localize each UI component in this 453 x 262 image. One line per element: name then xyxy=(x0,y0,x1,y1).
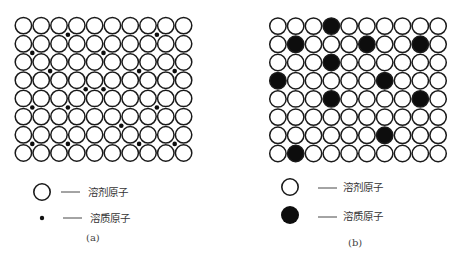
solvent-atom xyxy=(104,90,120,106)
solvent-atom xyxy=(394,91,410,107)
solvent-atom xyxy=(86,108,102,124)
solvent-atom xyxy=(430,127,446,143)
solvent-atom xyxy=(51,108,67,124)
solvent-atom xyxy=(15,108,31,124)
solvent-atom xyxy=(140,145,156,161)
solvent-atom xyxy=(175,17,191,33)
solvent-atom xyxy=(175,54,191,70)
solvent-atom xyxy=(288,127,304,143)
solvent-atom xyxy=(430,91,446,107)
solvent-atom xyxy=(341,36,357,52)
solvent-atom xyxy=(305,73,321,89)
solvent-atom xyxy=(377,54,393,70)
legend-b-solvent-label: 溶剂原子 xyxy=(343,181,383,193)
solvent-atom xyxy=(69,54,85,70)
solvent-atom xyxy=(158,90,174,106)
solvent-atom xyxy=(86,54,102,70)
solvent-atom xyxy=(359,127,375,143)
legend-b-solute-label: 溶质原子 xyxy=(343,210,383,222)
solvent-atom xyxy=(412,145,428,161)
solvent-atom xyxy=(305,91,321,107)
solvent-atom xyxy=(140,72,156,88)
solvent-atom xyxy=(69,108,85,124)
solvent-atom xyxy=(394,54,410,70)
solvent-atom xyxy=(430,18,446,34)
solute-atom xyxy=(359,36,375,52)
solvent-atom xyxy=(341,73,357,89)
panel-a-caption: (a) xyxy=(86,232,100,243)
solvent-atom xyxy=(394,109,410,125)
solute-atom xyxy=(155,105,160,110)
solute-atom xyxy=(101,51,106,56)
solvent-atom xyxy=(305,54,321,70)
solvent-atom xyxy=(430,73,446,89)
solvent-atom xyxy=(158,17,174,33)
interstitial-solid-solution-lattice xyxy=(15,17,192,161)
solvent-atom xyxy=(394,36,410,52)
solvent-atom xyxy=(122,127,138,143)
solvent-atom xyxy=(430,54,446,70)
solvent-atom xyxy=(341,54,357,70)
solute-atom xyxy=(377,73,393,89)
solute-atom xyxy=(83,87,88,92)
solvent-atom xyxy=(270,145,286,161)
solid-solution-diagram: 溶剂原子 溶质原子 (a) 溶剂原子 溶质原子 (b) xyxy=(0,0,453,262)
solvent-atom xyxy=(341,145,357,161)
solute-atom xyxy=(323,91,339,107)
solute-atom xyxy=(119,123,124,128)
solvent-atom xyxy=(175,108,191,124)
solvent-atom xyxy=(104,36,120,52)
solute-atom xyxy=(30,105,35,110)
substitutional-solid-solution-lattice xyxy=(270,18,447,162)
solvent-atom xyxy=(104,17,120,33)
solvent-atom xyxy=(359,145,375,161)
solvent-atom xyxy=(104,145,120,161)
legend-b: 溶剂原子 溶质原子 (b) xyxy=(281,179,383,248)
solvent-atom xyxy=(33,54,49,70)
solvent-atom xyxy=(33,72,49,88)
solute-atom xyxy=(66,142,71,147)
solute-atom xyxy=(412,36,428,52)
solute-atom xyxy=(66,105,71,110)
solvent-atom xyxy=(122,54,138,70)
solvent-atom xyxy=(51,72,67,88)
solvent-atom xyxy=(86,127,102,143)
solvent-atom xyxy=(122,145,138,161)
solvent-atom xyxy=(270,18,286,34)
solvent-atom xyxy=(270,91,286,107)
solvent-atom xyxy=(323,36,339,52)
solvent-atom xyxy=(15,127,31,143)
solvent-atom xyxy=(359,73,375,89)
solute-atom xyxy=(412,91,428,107)
solvent-atom xyxy=(33,145,49,161)
solvent-atom xyxy=(122,72,138,88)
legend-a: 溶剂原子 溶质原子 (a) xyxy=(34,184,130,243)
solvent-atom xyxy=(412,127,428,143)
solvent-atom xyxy=(69,90,85,106)
solute-atom xyxy=(66,32,71,37)
solvent-atom xyxy=(69,145,85,161)
solvent-atom xyxy=(15,145,31,161)
solvent-atom xyxy=(175,145,191,161)
solute-atom xyxy=(377,127,393,143)
legend-a-solute-label: 溶质原子 xyxy=(90,212,130,224)
solvent-atom xyxy=(430,109,446,125)
solvent-atom xyxy=(140,17,156,33)
solvent-atom xyxy=(33,17,49,33)
solute-atom xyxy=(30,51,35,56)
solvent-atom xyxy=(305,127,321,143)
solvent-atom xyxy=(377,91,393,107)
solute-atom xyxy=(288,145,304,161)
solvent-atom xyxy=(140,127,156,143)
solvent-atom xyxy=(86,72,102,88)
solvent-atom xyxy=(412,109,428,125)
solute-atom xyxy=(137,142,142,147)
solvent-atom xyxy=(412,54,428,70)
solute-atom xyxy=(323,54,339,70)
solute-atom xyxy=(270,73,286,89)
solvent-atom xyxy=(341,109,357,125)
solvent-atom xyxy=(341,127,357,143)
solvent-atom xyxy=(15,17,31,33)
solvent-atom xyxy=(51,54,67,70)
solute-atom-legend-icon xyxy=(281,206,299,224)
